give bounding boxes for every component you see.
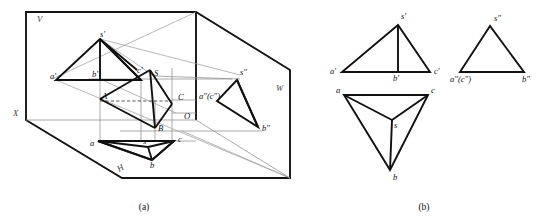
b-label-s: s xyxy=(394,120,398,130)
label-ac-dblprime-a: a"(c") xyxy=(199,91,220,101)
label-c-h-a: c xyxy=(178,134,182,144)
label-b-prime-a: b' xyxy=(92,69,98,79)
projection-ray-bottom-corner xyxy=(182,131,290,178)
x-axis-label: X xyxy=(12,108,19,118)
projection-ray-diagonal-main xyxy=(56,80,290,178)
label-a-h-a: a xyxy=(90,138,94,148)
part-b-group: s' a' b' c' s" a"(c") b" a c s b (b) xyxy=(330,11,530,213)
w-plane-label: W xyxy=(276,83,284,93)
figure-root: V W H X O S A B C s' a' b' c' a b c s s"… xyxy=(0,0,548,222)
caption-b: (b) xyxy=(418,202,429,213)
projection-box-outline xyxy=(26,12,290,178)
b-label-a: a xyxy=(336,85,340,95)
label-b-dblprime-a: b" xyxy=(262,123,270,133)
b-label-a-prime: a' xyxy=(330,66,336,76)
profile-projection-triangle-a xyxy=(217,80,258,127)
axis-oy-depth xyxy=(196,120,290,178)
b-label-s-dblprime: s" xyxy=(494,13,501,23)
label-c-prime-a: c' xyxy=(137,65,143,75)
h-plane-label: H xyxy=(114,162,126,175)
b-profile-triangle xyxy=(460,26,524,72)
b-label-c-prime: c' xyxy=(434,66,440,76)
b-label-c: c xyxy=(431,85,435,95)
b-label-s-prime: s' xyxy=(401,11,406,21)
b-horizontal-edge-s-b xyxy=(390,120,392,170)
part-a-group: V W H X O S A B C s' a' b' c' a b c s s"… xyxy=(12,12,290,213)
b-frontal-triangle xyxy=(342,25,430,72)
label-s-dblprime-a: s" xyxy=(240,67,247,77)
point-C-label: C xyxy=(178,92,184,102)
origin-label: O xyxy=(184,111,190,121)
b-label-b-prime: b' xyxy=(393,73,399,83)
ref-line-apex-to-w xyxy=(154,76,240,79)
b-horizontal-outline xyxy=(344,95,428,170)
b-label-ac-dblprime: a"(c") xyxy=(450,74,471,84)
solid-edge-a-b xyxy=(100,99,155,128)
projection-ray-a-to-depth xyxy=(100,79,176,113)
v-plane-label: V xyxy=(37,14,44,24)
label-a-prime-a: a' xyxy=(50,71,56,81)
frontal-projection-triangle-a xyxy=(56,39,141,80)
label-b-h-a: b xyxy=(150,160,155,170)
point-A-label: A xyxy=(101,91,108,101)
caption-a: (a) xyxy=(139,202,150,213)
label-s-prime-a: s' xyxy=(100,29,105,39)
point-B-label: B xyxy=(158,123,164,133)
b-label-b-dblprime: b" xyxy=(522,74,530,84)
figure-canvas: V W H X O S A B C s' a' b' c' a b c s s"… xyxy=(0,0,548,222)
b-label-b: b xyxy=(393,172,398,182)
point-S-label: S xyxy=(154,68,159,78)
